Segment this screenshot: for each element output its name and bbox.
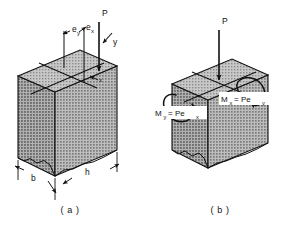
moment-x-equation-b: = Pe [234, 95, 251, 104]
caption-a: ( a ) [60, 205, 79, 215]
moment-x-label-sub-b: x [230, 100, 233, 106]
dimension-h-label: h [85, 167, 90, 177]
moment-y-equation-sub-b: x [196, 114, 199, 120]
dimension-b-label: b [31, 173, 36, 183]
ecc-x-label-sub-a: x [91, 28, 94, 34]
load-label-b: P [222, 16, 228, 26]
figure-container: P e y e x y [0, 0, 286, 231]
moment-y-label-sub-b: y [164, 114, 167, 120]
moment-x-label-b: M [221, 95, 228, 104]
caption-b: ( b ) [210, 205, 229, 215]
ecc-y-label-sub-a: y [77, 30, 80, 36]
axis-x-label-a: x [99, 77, 102, 83]
moment-x-equation-sub-b: y [262, 100, 265, 106]
eccentric-load-diagram: P e y e x y [0, 0, 286, 231]
moment-y-label-b: M [155, 109, 162, 118]
moment-y-equation-b: = Pe [168, 109, 185, 118]
load-label-a: P [102, 8, 108, 18]
